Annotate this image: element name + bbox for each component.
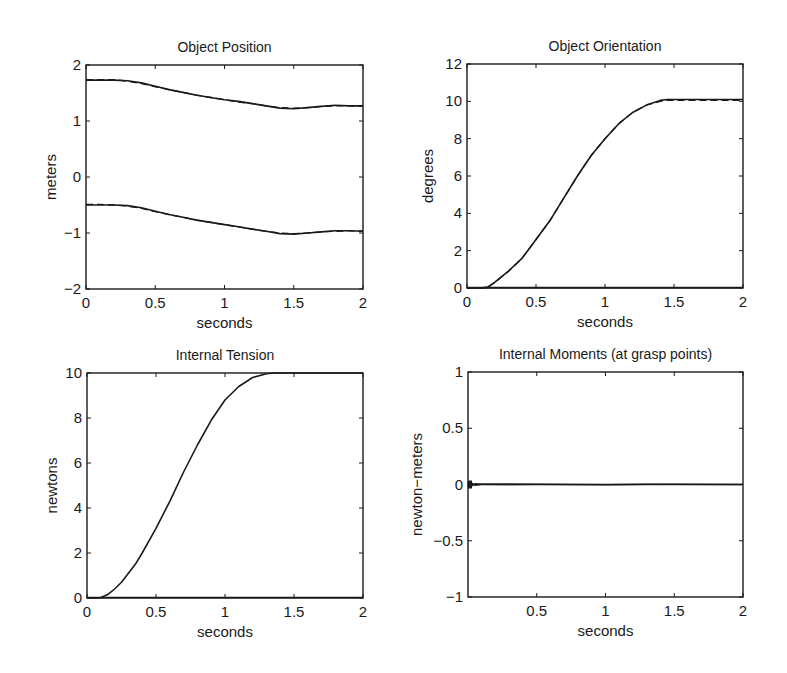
x-tick-label: 1 [220, 294, 228, 311]
y-axis-label: newton−meters [408, 433, 425, 536]
subplot-object-orientation: Object Orientation00.511.52024681012seco… [419, 38, 747, 330]
x-tick-label: 0 [83, 603, 91, 620]
x-tick-label: 2 [739, 602, 747, 619]
chart-title: Internal Moments (at grasp points) [499, 346, 712, 362]
subplot-internal-moments: Internal Moments (at grasp points)0.511.… [408, 346, 747, 639]
chart-title: Object Orientation [549, 38, 662, 54]
y-axis-label: meters [42, 154, 59, 200]
y-tick-label: 6 [74, 454, 82, 471]
axes-frame [467, 64, 743, 288]
axes-frame [87, 373, 363, 598]
x-axis-label: seconds [578, 622, 634, 639]
x-tick-label: 0.5 [146, 603, 167, 620]
y-tick-label: 8 [74, 409, 82, 426]
y-tick-label: 8 [454, 130, 462, 147]
x-tick-label: 2 [739, 293, 747, 310]
y-tick-label: −1 [446, 588, 463, 605]
x-tick-label: 0 [82, 294, 90, 311]
figure-canvas: Object Position00.511.52−2−1012secondsme… [0, 0, 787, 673]
x-tick-label: 1 [601, 602, 609, 619]
x-tick-label: 0.5 [526, 293, 547, 310]
x-tick-label: 0.5 [526, 602, 547, 619]
y-tick-label: 0 [455, 476, 463, 493]
chart-title: Object Position [177, 39, 271, 55]
y-tick-label: −1 [64, 224, 81, 241]
y-tick-label: 0 [454, 279, 462, 296]
x-tick-label: 0 [463, 293, 471, 310]
x-tick-label: 0.5 [145, 294, 166, 311]
x-tick-label: 1 [601, 293, 609, 310]
subplot-internal-tension: Internal Tension00.511.520246810secondsn… [43, 347, 367, 640]
y-tick-label: 0 [74, 589, 82, 606]
y-tick-label: 2 [73, 56, 81, 73]
y-tick-label: 0.5 [442, 419, 463, 436]
x-tick-label: 2 [359, 294, 367, 311]
x-axis-label: seconds [197, 314, 253, 331]
y-tick-label: 2 [454, 242, 462, 259]
series-x-desired [86, 80, 363, 109]
x-tick-label: 1.5 [664, 293, 685, 310]
y-tick-label: −0.5 [433, 532, 463, 549]
y-tick-label: 6 [454, 167, 462, 184]
x-tick-label: 1.5 [284, 603, 305, 620]
axes-frame [86, 65, 363, 289]
y-tick-label: 2 [74, 544, 82, 561]
chart-title: Internal Tension [176, 347, 275, 363]
x-tick-label: 2 [359, 603, 367, 620]
x-axis-label: seconds [197, 623, 253, 640]
series-tension [87, 373, 363, 598]
y-tick-label: 4 [454, 204, 462, 221]
y-tick-label: 1 [455, 363, 463, 380]
series-x-actual [86, 80, 363, 109]
y-tick-label: 10 [65, 364, 82, 381]
x-tick-label: 1.5 [283, 294, 304, 311]
initial-transient-marker [468, 481, 472, 489]
x-tick-label: 1.5 [664, 602, 685, 619]
subplot-object-position: Object Position00.511.52−2−1012secondsme… [42, 39, 367, 331]
x-axis-label: seconds [577, 313, 633, 330]
y-tick-label: −2 [64, 280, 81, 297]
series-orientation-desired [467, 100, 743, 288]
y-axis-label: newtons [43, 458, 60, 514]
y-tick-label: 1 [73, 112, 81, 129]
y-tick-label: 12 [445, 55, 462, 72]
x-tick-label: 1 [221, 603, 229, 620]
series-y-actual [86, 205, 363, 234]
series-moment-2 [468, 482, 743, 487]
series-y-desired [86, 204, 363, 233]
y-axis-label: degrees [419, 149, 436, 203]
y-tick-label: 4 [74, 499, 82, 516]
y-tick-label: 10 [445, 92, 462, 109]
y-tick-label: 0 [73, 168, 81, 185]
series-orientation-actual [467, 100, 743, 289]
